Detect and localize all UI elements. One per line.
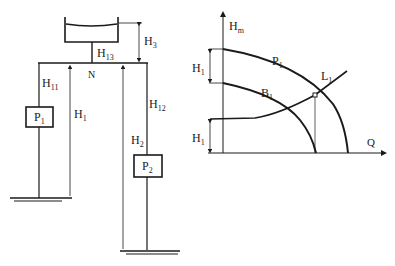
label-h2: H2 (131, 133, 144, 149)
head-flow-graph: Hm Q P1 B1 L1 H1 H1 (192, 14, 384, 153)
x-axis-label: Q (367, 136, 375, 148)
label-h3: H3 (144, 34, 157, 50)
operating-point (313, 93, 317, 97)
label-h13: H13 (97, 46, 114, 62)
y-axis-label: Hm (229, 19, 245, 35)
label-l1: L1 (321, 69, 332, 85)
label-h1: H1 (74, 107, 87, 123)
upper-tank (65, 17, 142, 42)
water-surface (66, 24, 117, 26)
label-upper-h1: H1 (192, 61, 205, 77)
ground-right (120, 251, 180, 254)
label-h12: H12 (149, 97, 166, 113)
diagram-canvas: H3 H13 N H11 H12 H1 H2 P1 P2 Hm Q P1 B1 (0, 0, 395, 266)
ground-left (10, 198, 72, 201)
curve-p1 (223, 49, 348, 153)
piping-schematic: H3 H13 N H11 H12 H1 H2 P1 P2 (10, 17, 180, 254)
label-h11: H11 (42, 76, 58, 92)
label-lower-h1: H1 (192, 131, 205, 147)
label-b1: B1 (261, 86, 273, 102)
junction-n: N (88, 69, 95, 80)
label-p1: P1 (272, 54, 283, 70)
